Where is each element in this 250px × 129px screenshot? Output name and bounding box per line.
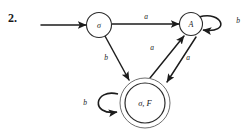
edge-a-to-final <box>167 37 196 82</box>
self-loop-final <box>98 93 118 112</box>
edge-label-self-loop-a: b <box>236 16 240 25</box>
fsm-diagram: 2. a b a a b b σ A σ, F <box>0 0 250 129</box>
edge-start-to-final <box>105 36 129 80</box>
edge-label-final-to-a: a <box>150 43 154 52</box>
edge-final-to-a <box>150 36 184 78</box>
exercise-number: 2. <box>8 11 17 25</box>
state-a-label: A <box>188 20 194 29</box>
edge-label-a-to-final: a <box>186 53 190 62</box>
edge-label-self-loop-final: b <box>83 98 87 107</box>
state-final-label: σ, F <box>138 98 152 108</box>
edge-label-start-to-a: a <box>144 12 148 21</box>
edge-label-start-to-final: b <box>104 53 108 62</box>
diagram-page: 2. a b a a b b σ A σ, F <box>0 0 250 129</box>
